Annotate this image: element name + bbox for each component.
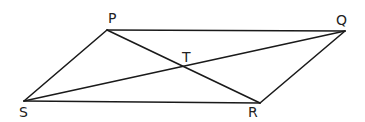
segment-RS xyxy=(24,101,260,103)
label-Q: Q xyxy=(336,12,347,28)
segment-QR xyxy=(260,31,345,103)
label-P: P xyxy=(108,10,116,26)
segment-PQ xyxy=(107,30,345,31)
label-S: S xyxy=(19,104,28,120)
label-R: R xyxy=(248,104,258,120)
label-T: T xyxy=(181,49,191,65)
diagonal-SQ xyxy=(24,31,345,101)
segment-SP xyxy=(24,30,107,101)
parallelogram-diagram: P Q T S R xyxy=(0,0,365,122)
